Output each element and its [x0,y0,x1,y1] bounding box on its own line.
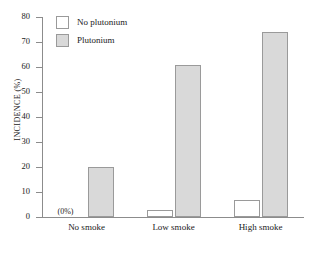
y-axis-tick-label: 80 [10,12,30,21]
bar-plutonium [262,32,288,217]
y-axis-tick-label: 10 [10,187,30,196]
legend-label: No plutonium [77,18,127,27]
y-axis-tick-mark [36,67,42,68]
bar-group [217,17,304,217]
y-axis-tick-label: 30 [10,137,30,146]
bar-chart: INCIDENCE (%) 01020304050607080 (0%) No … [0,0,311,255]
bar-no-plutonium [234,200,260,218]
zero-value-annotation: (0%) [58,208,74,216]
y-axis-tick-label: 20 [10,162,30,171]
y-axis-tick-mark [36,42,42,43]
y-axis-tick-mark [36,142,42,143]
x-axis-category-label: Low smoke [130,222,217,232]
legend-label: Plutonium [77,36,115,45]
legend-item: No plutonium [56,14,127,30]
x-axis-category-label: No smoke [43,222,130,232]
y-axis-tick-label: 60 [10,62,30,71]
bar-plutonium [88,167,114,217]
y-axis-title: INCIDENCE (%) [13,55,22,165]
y-axis-tick-label: 70 [10,37,30,46]
y-axis-tick-mark [36,167,42,168]
y-axis-tick-mark [36,217,42,218]
y-axis-tick-mark [36,92,42,93]
legend-swatch-no-plutonium [56,16,69,29]
y-axis-tick-label: 40 [10,112,30,121]
legend-item: Plutonium [56,32,127,48]
chart-legend: No plutoniumPlutonium [56,14,127,50]
bar-no-plutonium [147,210,173,218]
bar-plutonium [175,65,201,218]
bar-group [130,17,217,217]
x-axis-line [42,217,304,218]
y-axis-tick-mark [36,192,42,193]
y-axis-tick-label: 0 [10,212,30,221]
legend-swatch-plutonium [56,34,69,47]
y-axis-tick-mark [36,117,42,118]
y-axis-tick-mark [36,17,42,18]
x-axis-category-label: High smoke [217,222,304,232]
y-axis-tick-label: 50 [10,87,30,96]
